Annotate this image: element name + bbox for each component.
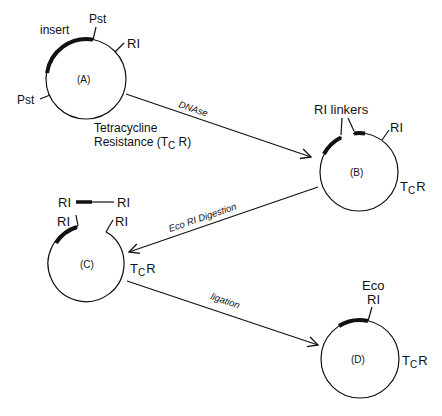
b-tcr-label: TCR: [400, 179, 426, 196]
plasmid-a-id: (A): [77, 74, 90, 85]
ri-linkers-label: RI linkers: [314, 102, 369, 117]
step-ecori-digestion: Eco RI Digestion: [129, 187, 318, 252]
c-tcr-label: TCR: [130, 261, 156, 278]
plasmid-d-insert-segment: [339, 320, 368, 326]
pst-top-label: Pst: [89, 12, 107, 26]
d-eco-label: Eco: [362, 278, 384, 293]
c-ri-right-label: RI: [115, 214, 128, 229]
c-left-end: [76, 215, 78, 226]
ri-label: RI: [127, 36, 140, 51]
plasmid-c-id: (C): [80, 259, 94, 270]
linker-left-segment: [324, 138, 341, 155]
plasmid-a: insert Pst RI Pst (A) Tetracycline Resis…: [17, 12, 191, 151]
d-ecori-tick: [368, 307, 372, 321]
dnase-label: DNAse: [177, 98, 209, 118]
pst-top-tick: [93, 27, 96, 40]
cloning-diagram: insert Pst RI Pst (A) Tetracycline Resis…: [0, 0, 442, 416]
fragment-ri-right: RI: [117, 195, 130, 210]
linker-leader-right: [348, 118, 354, 131]
pst-left-tick: [40, 95, 50, 99]
pst-left-label: Pst: [17, 93, 35, 107]
c-ri-left-label: RI: [57, 214, 70, 229]
c-right-end: [106, 220, 113, 232]
d-ri-label: RI: [367, 292, 380, 307]
b-ri-tick: [382, 130, 389, 140]
resistance-line2: Resistance (TC R): [94, 135, 191, 151]
c-right-end-hook: [106, 232, 111, 235]
plasmid-b-id: (B): [350, 167, 363, 178]
arrow-c-to-d: [127, 281, 318, 345]
arrow-b-to-c: [129, 187, 318, 252]
b-ri-label: RI: [390, 120, 403, 135]
linker-leader-left: [341, 118, 342, 135]
ri-tick: [115, 43, 124, 52]
step-ligation: ligation: [127, 281, 318, 345]
excised-fragment: RI RI: [58, 195, 130, 210]
plasmid-b: RI linkers RI (B) TCR: [314, 102, 426, 211]
ecori-digestion-label: Eco RI Digestion: [167, 200, 237, 233]
plasmid-d: Eco RI (D) TCR: [321, 278, 428, 398]
ligation-label: ligation: [209, 290, 241, 310]
fragment-ri-left: RI: [58, 195, 71, 210]
plasmid-a-insert-segment: [47, 39, 93, 73]
plasmid-c-insert-segment: [56, 227, 77, 243]
insert-label: insert: [40, 23, 70, 37]
plasmid-d-id: (D): [351, 354, 365, 365]
resistance-line1: Tetracycline: [94, 121, 158, 135]
d-tcr-label: TCR: [402, 353, 428, 370]
